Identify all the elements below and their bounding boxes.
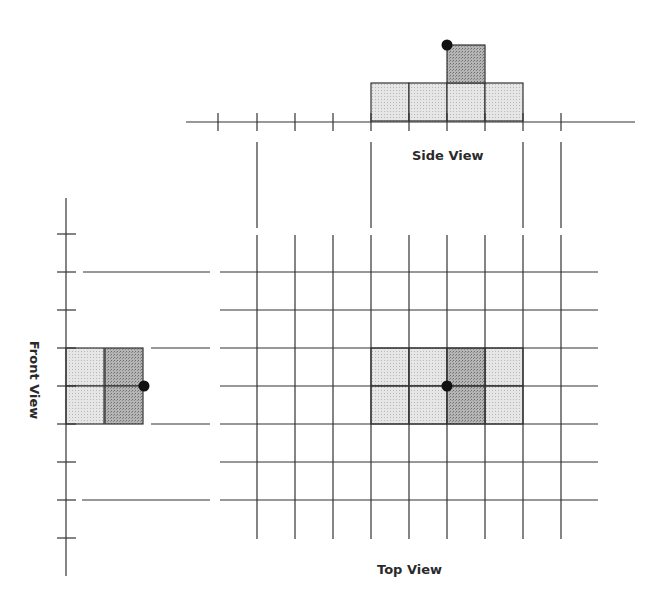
light-cube-face	[447, 83, 485, 121]
orthographic-projection-diagram	[0, 0, 664, 613]
marker-dot	[442, 40, 453, 51]
light-cube-face	[409, 386, 447, 424]
side-projection-lines	[257, 142, 561, 228]
dark-cube-face	[105, 386, 143, 424]
light-cube-face	[371, 386, 409, 424]
light-cube-face	[371, 83, 409, 121]
light-cube-face	[485, 386, 523, 424]
side-view	[186, 40, 635, 132]
dark-cube-face	[447, 386, 485, 424]
light-cube-face	[409, 348, 447, 386]
dark-cube-face	[447, 45, 485, 83]
front-view-label: Front View	[27, 341, 42, 420]
dark-cube-face	[105, 348, 143, 386]
light-cube-face	[66, 348, 104, 386]
side-view-label: Side View	[412, 148, 484, 163]
dark-cube-face	[447, 348, 485, 386]
light-cube-face	[409, 83, 447, 121]
light-cube-face	[485, 348, 523, 386]
light-cube-face	[371, 348, 409, 386]
top-view-label: Top View	[377, 562, 442, 577]
marker-dot	[139, 381, 150, 392]
light-cube-face	[485, 83, 523, 121]
marker-dot	[442, 381, 453, 392]
top-view	[220, 235, 598, 539]
light-cube-face	[66, 386, 104, 424]
front-view	[57, 198, 150, 576]
